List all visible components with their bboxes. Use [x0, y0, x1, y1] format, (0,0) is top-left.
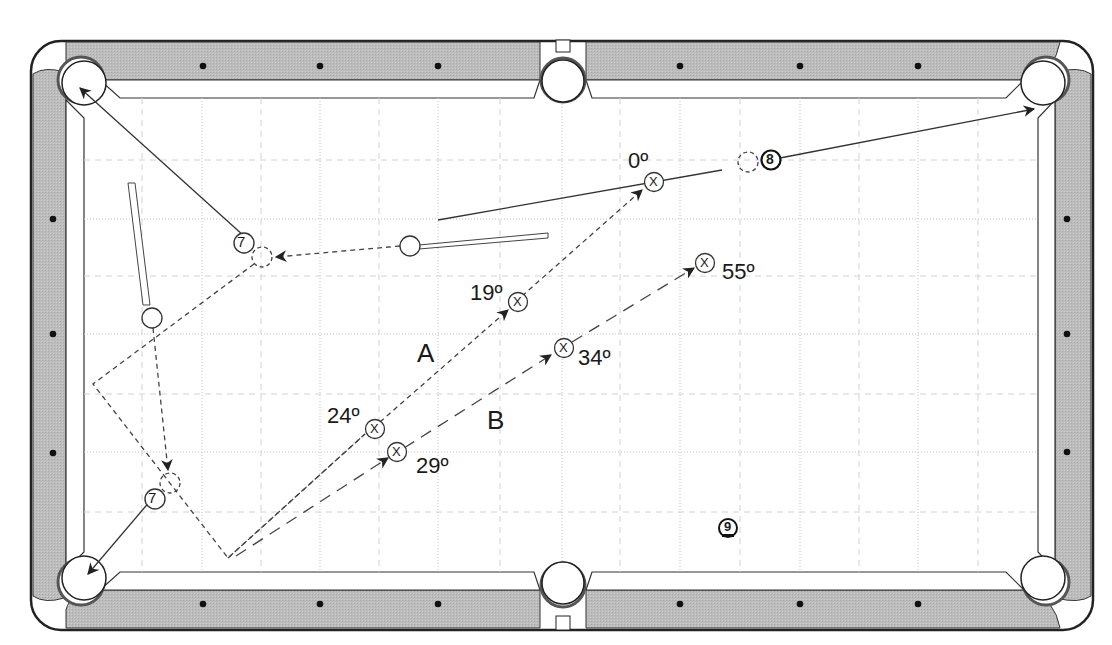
path-label-b: B — [487, 407, 504, 433]
pool-table-diagram: 7 7 8 9 X X X X X X 0º 19º 24º 29º 34º 5… — [0, 0, 1112, 645]
pocket-top-left — [58, 57, 106, 105]
pocket-bottom-left — [58, 556, 106, 605]
angle-label-34: 34º — [578, 347, 611, 369]
angle-label-24: 24º — [327, 405, 360, 427]
marker-x-24-symbol: X — [370, 422, 379, 435]
marker-x-19-symbol: X — [513, 295, 522, 308]
ball-8-number: 8 — [766, 152, 774, 166]
marker-x-55-symbol: X — [700, 256, 709, 269]
cue-ball-1 — [400, 236, 420, 256]
ball-7-top-number: 7 — [237, 234, 245, 249]
angle-label-19: 19º — [470, 282, 503, 304]
angle-label-29: 29º — [416, 455, 449, 477]
cue-ball-2 — [142, 308, 162, 328]
angle-label-0: 0º — [628, 150, 648, 172]
pocket-top-right — [1021, 57, 1069, 105]
marker-x-0-symbol: X — [649, 175, 658, 188]
ball-7-bottom-number: 7 — [148, 490, 156, 505]
angle-label-55: 55º — [722, 261, 755, 283]
path-label-a: A — [417, 340, 434, 366]
marker-x-29-symbol: X — [392, 445, 401, 458]
pocket-bottom-right — [1021, 556, 1069, 605]
marker-x-34-symbol: X — [559, 341, 568, 354]
ball-9-number: 9 — [724, 520, 731, 533]
